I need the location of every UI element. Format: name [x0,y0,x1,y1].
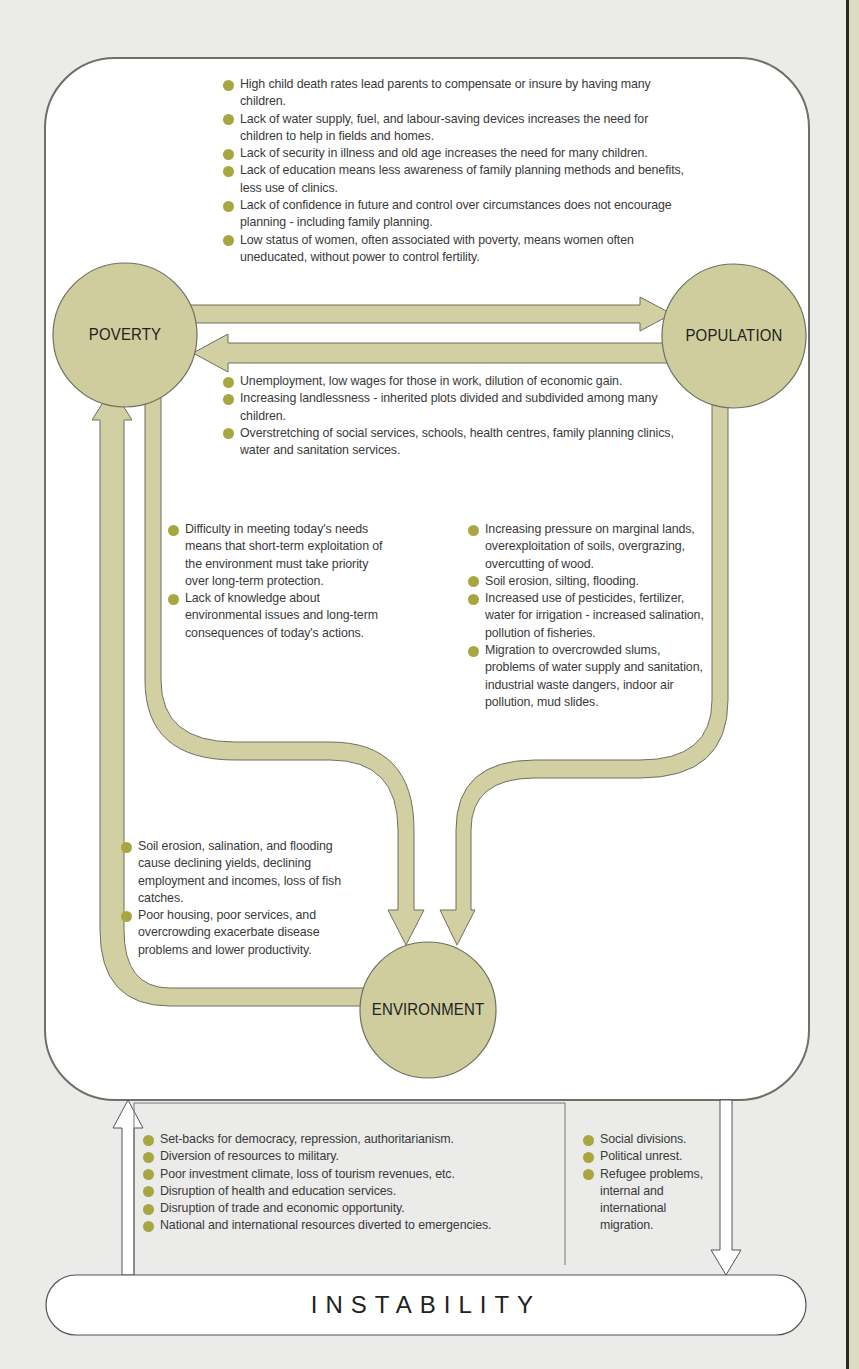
list-item: Migration to overcrowded slums, problems… [468,642,708,711]
list-item: Increased use of pesticides, fertilizer,… [468,590,708,642]
list-item: Poor housing, poor services, and overcro… [121,907,356,959]
list-item: Soil erosion, salination, and flooding c… [121,838,356,907]
arrow-instability-to-system [113,1100,143,1275]
arrow-system-to-instability [711,1100,741,1275]
list-item: Lack of knowledge about environmental is… [168,590,383,642]
list-item: Low status of women, often associated wi… [223,232,693,267]
list-item: Poor investment climate, loss of tourism… [143,1166,563,1183]
node-environment-label: ENVIRONMENT [366,1000,489,1020]
list-item: National and international resources div… [143,1217,563,1234]
list-item: Social divisions. [583,1131,708,1148]
list-item: Lack of confidence in future and control… [223,197,693,232]
list-item: Increasing pressure on marginal lands, o… [468,521,708,573]
list-item: Set-backs for democracy, repression, aut… [143,1131,563,1148]
population-to-environment-effects: Increasing pressure on marginal lands, o… [468,521,708,711]
list-item: Disruption of trade and economic opportu… [143,1200,563,1217]
list-item: Political unrest. [583,1148,708,1165]
list-item: High child death rates lead parents to c… [223,76,693,111]
node-poverty-label: POVERTY [68,325,182,345]
list-item: Lack of security in illness and old age … [223,145,693,162]
list-item: Unemployment, low wages for those in wor… [223,373,683,390]
population-to-poverty-effects: Unemployment, low wages for those in wor… [223,373,683,459]
list-item: Refugee problems, internal and internati… [583,1166,708,1235]
poverty-to-environment-effects: Difficulty in meeting today's needs mean… [168,521,383,642]
list-item: Disruption of health and education servi… [143,1183,563,1200]
environment-to-poverty-effects: Soil erosion, salination, and flooding c… [121,838,356,959]
list-item: Overstretching of social services, schoo… [223,425,683,460]
node-instability-label: INSTABILITY [46,1275,806,1335]
node-population-label: POPULATION [674,326,794,346]
list-item: Increasing landlessness - inherited plot… [223,390,683,425]
list-item: Lack of education means less awareness o… [223,162,693,197]
list-item: Difficulty in meeting today's needs mean… [168,521,383,590]
instability-to-system-effects: Set-backs for democracy, repression, aut… [143,1131,563,1235]
poverty-to-population-effects: High child death rates lead parents to c… [223,76,693,266]
list-item: Soil erosion, silting, flooding. [468,573,708,590]
list-item: Lack of water supply, fuel, and labour-s… [223,111,693,146]
system-to-instability-effects: Social divisions. Political unrest. Refu… [583,1131,708,1235]
list-item: Diversion of resources to military. [143,1148,563,1165]
